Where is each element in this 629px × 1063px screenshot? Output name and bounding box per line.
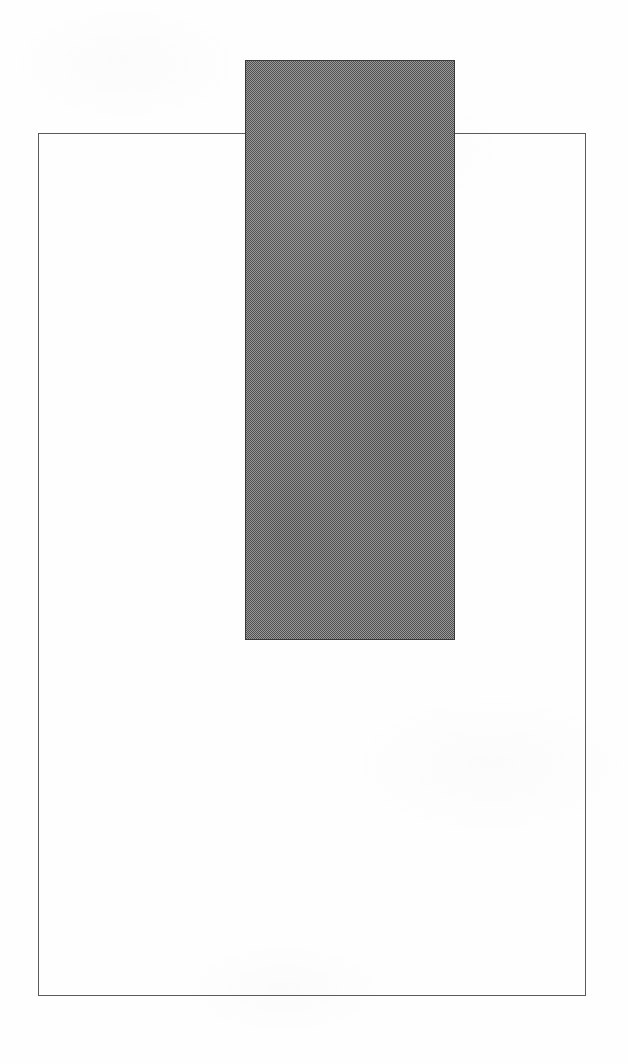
filled-rectangle	[245, 60, 455, 640]
figure-canvas	[0, 0, 629, 1063]
